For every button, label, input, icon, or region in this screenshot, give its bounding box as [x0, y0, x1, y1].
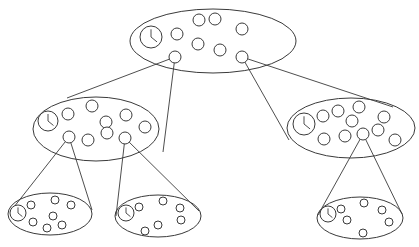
item-circle — [317, 110, 329, 122]
item-circle — [214, 44, 226, 56]
item-circle — [154, 221, 162, 229]
item-circle — [29, 218, 37, 226]
item-circle — [339, 130, 351, 142]
node-root — [130, 9, 296, 73]
item-circle — [209, 13, 221, 25]
item-circle — [43, 224, 51, 232]
edge-root-to-right — [242, 57, 393, 140]
connector-line — [67, 57, 175, 98]
item-circle — [27, 201, 35, 209]
item-circle — [58, 221, 66, 229]
item-circle — [100, 116, 112, 128]
connector-line — [163, 57, 175, 152]
item-circle — [49, 212, 57, 220]
nodes-layer — [8, 9, 415, 239]
item-circle — [169, 51, 181, 63]
item-circle — [372, 124, 384, 136]
item-circle — [353, 101, 365, 113]
clock-icon — [293, 113, 315, 135]
connector-line — [116, 138, 125, 216]
item-circle — [346, 115, 358, 127]
item-circle — [159, 197, 167, 205]
item-circle — [378, 111, 390, 123]
item-circle — [236, 51, 248, 63]
item-circle — [171, 28, 183, 40]
edge-left-to-left-right — [116, 138, 199, 216]
clock-icon — [10, 205, 26, 221]
node-left-left — [8, 193, 92, 235]
item-circle — [343, 216, 351, 224]
connector-line — [318, 134, 363, 215]
item-circle — [176, 204, 184, 212]
item-circle — [236, 23, 248, 35]
item-circle — [177, 216, 185, 224]
diagram-svg — [0, 0, 419, 247]
item-circle — [192, 38, 204, 50]
item-circle — [139, 121, 151, 133]
clock-icon — [38, 111, 58, 131]
item-circle — [86, 100, 98, 112]
item-circle — [135, 203, 143, 211]
item-circle — [101, 127, 113, 139]
item-circle — [360, 199, 368, 207]
item-circle — [332, 105, 344, 117]
item-circle — [141, 227, 149, 235]
item-circle — [119, 132, 131, 144]
item-circle — [389, 134, 401, 146]
item-circle — [67, 201, 75, 209]
item-circle — [337, 205, 345, 213]
node-left-right — [115, 195, 201, 237]
connector-line — [10, 137, 69, 212]
item-circle — [193, 14, 205, 26]
item-circle — [357, 128, 369, 140]
node-right-child — [317, 197, 403, 239]
node-right — [287, 98, 415, 158]
item-circle — [359, 229, 367, 237]
clock-icon — [118, 205, 134, 221]
node-left — [33, 97, 159, 161]
item-circle — [63, 131, 75, 143]
item-circle — [318, 133, 330, 145]
item-circle — [120, 109, 132, 121]
clock-icon — [140, 26, 162, 48]
tree-diagram — [0, 0, 419, 247]
item-circle — [378, 206, 386, 214]
item-circle — [82, 134, 94, 146]
clock-icon — [320, 206, 336, 222]
item-circle — [62, 108, 74, 120]
item-circle — [51, 196, 59, 204]
item-circle — [385, 218, 393, 226]
